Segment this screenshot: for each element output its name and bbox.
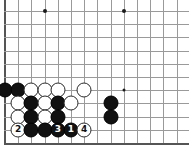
star-point-lower-right [122, 89, 125, 92]
go-board-diagram: 2314 [0, 0, 189, 153]
grid-line-vertical [163, 0, 164, 144]
stone-move-number: 2 [15, 125, 21, 134]
star-point-upper-right [122, 9, 126, 13]
grid-line-vertical [137, 0, 138, 144]
grid-line-horizontal [4, 11, 189, 12]
grid-line-vertical [97, 0, 98, 144]
board-left-edge [4, 0, 6, 145]
move-stone-4-white: 4 [77, 122, 92, 137]
stone-white [77, 83, 92, 98]
stone-move-number: 3 [55, 125, 61, 134]
grid-line-vertical [124, 0, 125, 144]
board-bottom-edge [4, 143, 189, 145]
grid-line-horizontal [4, 77, 189, 78]
stone-move-number: 1 [68, 125, 74, 134]
grid-line-vertical [150, 0, 151, 144]
grid-line-horizontal [4, 24, 189, 25]
stone-white [64, 96, 79, 111]
grid-line-horizontal [4, 64, 189, 65]
grid-line-horizontal [4, 37, 189, 38]
grid-line-vertical [177, 0, 178, 144]
stone-black [103, 109, 118, 124]
stone-move-number: 4 [81, 125, 87, 134]
grid-line-horizontal [4, 51, 189, 52]
star-point-upper-left [43, 9, 47, 13]
